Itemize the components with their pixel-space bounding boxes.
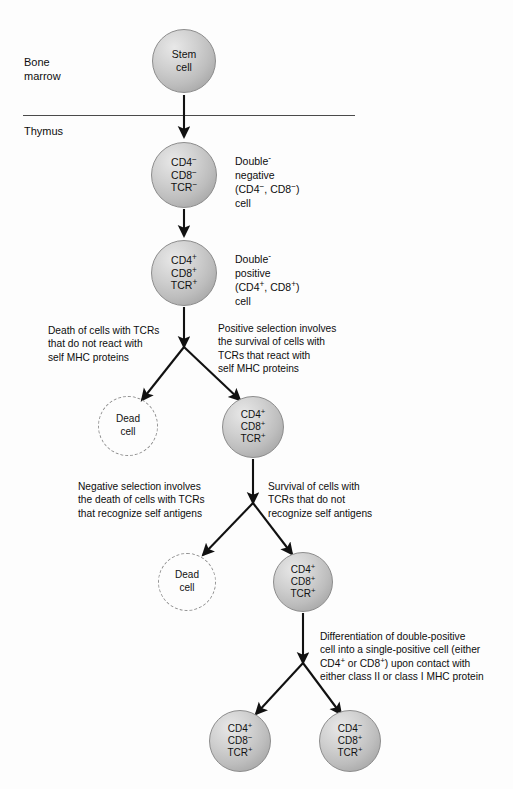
superscript-sign: + (358, 733, 363, 742)
surviving-double-positive-cell-2: CD4+CD8+TCR+ (273, 552, 333, 612)
region-label-thymus: Thymus (24, 124, 63, 138)
superscript-sign: − (192, 180, 197, 189)
cell-label-line: TCR+ (227, 747, 252, 759)
superscript-sign: + (291, 279, 296, 288)
differentiation-annotation: Differentiation of double-positivecell i… (320, 630, 484, 684)
superscript-sign: + (311, 586, 316, 595)
superscript-sign: - (268, 252, 271, 261)
cell-label-line: Dead (116, 413, 140, 426)
double-negative-cell: CD4−CD8−TCR− (151, 142, 217, 208)
superscript-sign: + (192, 252, 197, 261)
cell-label-line: cell (120, 426, 135, 439)
double-positive-cell: CD4+CD8+TCR+ (151, 240, 217, 306)
superscript-sign: − (192, 154, 197, 163)
superscript-sign: + (358, 745, 363, 754)
surviving-double-positive-cell-1: CD4+CD8+TCR+ (222, 396, 284, 458)
cell-label-line: TCR+ (290, 588, 315, 600)
positive-selection-annotation: Positive selection involvesthe survival … (218, 322, 336, 376)
superscript-sign: + (261, 431, 266, 440)
superscript-sign: + (261, 406, 266, 415)
cell-label-line: TCR− (171, 181, 197, 194)
region-label-bone-marrow: Bone marrow (24, 55, 61, 84)
superscript-sign: + (192, 278, 197, 287)
superscript-sign: + (311, 574, 316, 583)
superscript-sign: + (340, 656, 345, 665)
cell-label-line: cell (179, 582, 194, 595)
superscript-sign: - (268, 154, 271, 163)
death-of-cells-annotation: Death of cells with TCRsthat do not reac… (48, 324, 159, 364)
superscript-sign: + (311, 561, 316, 570)
superscript-sign: − (260, 181, 265, 190)
dead-cell-negative-selection: Deadcell (158, 553, 216, 611)
superscript-sign: − (192, 167, 197, 176)
bone-marrow-thymus-divider (23, 115, 355, 116)
single-positive-cd8-cell: CD4−CD8+TCR+ (319, 710, 381, 772)
single-positive-cd4-cell: CD4+CD8−TCR+ (209, 710, 271, 772)
arrow-branch3-left-cd4 (256, 663, 303, 714)
cell-label-line: Dead (175, 569, 199, 582)
cell-label-line: cell (176, 61, 192, 74)
cell-label-line: TCR+ (171, 279, 197, 292)
superscript-sign: + (248, 745, 253, 754)
superscript-sign: + (248, 720, 253, 729)
superscript-sign: − (291, 181, 296, 190)
arrow-branch2-left-dead (203, 503, 253, 555)
cell-label-line: TCR+ (337, 747, 362, 759)
cell-label-line: Stem (172, 48, 197, 61)
cell-label-line: TCR+ (240, 433, 265, 445)
superscript-sign: − (248, 733, 253, 742)
survival-of-cells-annotation: Survival of cells withTCRs that do notre… (268, 480, 372, 520)
superscript-sign: + (192, 265, 197, 274)
double-positive-annotation: Double-positive(CD4+, CD8+)cell (235, 253, 299, 308)
negative-selection-annotation: Negative selection involvesthe death of … (78, 480, 205, 520)
double-negative-annotation: Double-negative(CD4−, CD8−)cell (235, 155, 299, 210)
tcell-development-diagram: Bone marrow Thymus StemcellCD4−CD8−TCR−C… (0, 0, 513, 789)
stem-cell: Stemcell (152, 29, 216, 93)
dead-cell-positive-selection: Deadcell (98, 396, 158, 456)
superscript-sign: − (358, 720, 363, 729)
superscript-sign: + (260, 279, 265, 288)
superscript-sign: + (261, 419, 266, 428)
superscript-sign: + (380, 656, 385, 665)
